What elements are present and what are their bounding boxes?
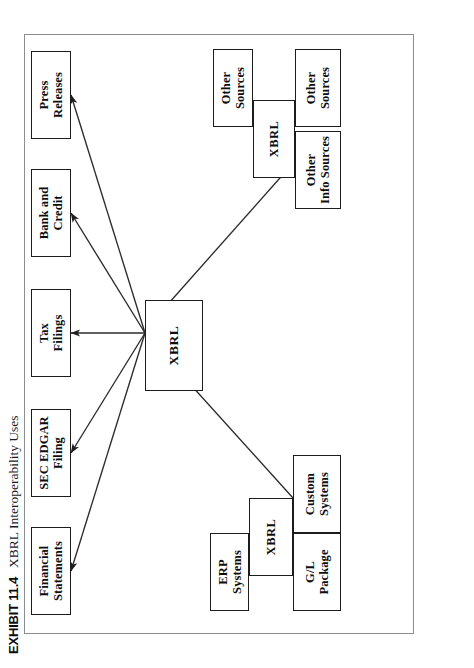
output-box-tax-filings[interactable]: TaxFilings bbox=[31, 289, 71, 377]
source-box-erp-systems[interactable]: ERPSystems bbox=[210, 533, 249, 611]
edge-right-cluster-to-hub bbox=[153, 161, 295, 321]
cluster-hub-box-right-xbrl[interactable]: XBRL bbox=[253, 100, 295, 178]
cluster-hub-box-left-xbrl[interactable]: XBRL bbox=[249, 498, 293, 576]
output-label: Bank andCredit bbox=[37, 185, 65, 242]
figure-frame: FinancialStatements SEC EDGARFiling TaxF… bbox=[24, 34, 414, 634]
output-box-bank-and-credit[interactable]: Bank andCredit bbox=[31, 169, 71, 257]
cluster-hub-label: XBRL bbox=[264, 517, 278, 558]
source-label: OtherSources bbox=[304, 65, 332, 111]
source-box-other-sources-bottom[interactable]: OtherSources bbox=[295, 49, 341, 127]
exhibit-title: XBRL Interoperability Uses bbox=[6, 415, 21, 567]
edge-hub-to-financial-statements bbox=[71, 333, 145, 571]
edge-hub-to-bank-and-credit bbox=[71, 213, 145, 333]
source-box-other-sources-top[interactable]: OtherSources bbox=[213, 49, 253, 127]
cluster-hub-label: XBRL bbox=[267, 119, 281, 160]
source-label: OtherSources bbox=[219, 65, 247, 111]
output-label: TaxFilings bbox=[37, 313, 65, 354]
source-label: G/LPackage bbox=[303, 547, 331, 596]
output-box-sec-edgar-filing[interactable]: SEC EDGARFiling bbox=[31, 409, 71, 497]
rotated-figure-wrapper: EXHIBIT 11.4XBRL Interoperability Uses bbox=[0, 0, 474, 668]
figure-page: EXHIBIT 11.4XBRL Interoperability Uses bbox=[0, 0, 474, 668]
source-label: OtherInfo Sources bbox=[304, 134, 332, 206]
source-label: ERPSystems bbox=[216, 548, 244, 596]
source-label: CustomSystems bbox=[303, 470, 331, 518]
source-box-other-info-sources[interactable]: OtherInfo Sources bbox=[295, 131, 341, 209]
source-box-gl-package[interactable]: G/LPackage bbox=[293, 533, 341, 611]
diagram-canvas: FinancialStatements SEC EDGARFiling TaxF… bbox=[25, 33, 415, 633]
edge-hub-to-sec-edgar-filing bbox=[71, 333, 145, 453]
hub-box-xbrl[interactable]: XBRL bbox=[145, 300, 203, 391]
hub-label: XBRL bbox=[166, 324, 181, 368]
output-box-press-releases[interactable]: PressReleases bbox=[31, 51, 71, 139]
output-box-financial-statements[interactable]: FinancialStatements bbox=[31, 527, 71, 615]
output-label: SEC EDGARFiling bbox=[37, 414, 65, 491]
output-label: FinancialStatements bbox=[37, 539, 65, 603]
edge-hub-to-press-releases bbox=[71, 95, 145, 333]
exhibit-number: EXHIBIT 11.4 bbox=[6, 577, 21, 654]
figure-caption: EXHIBIT 11.4XBRL Interoperability Uses bbox=[6, 415, 22, 654]
output-label: PressReleases bbox=[37, 70, 65, 120]
source-box-custom-systems[interactable]: CustomSystems bbox=[293, 455, 341, 533]
